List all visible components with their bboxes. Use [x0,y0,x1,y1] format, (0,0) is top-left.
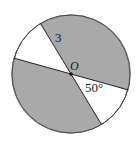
diagram-svg: 3 O 50° [0,0,140,141]
angle-label: 50° [85,80,103,95]
radius-label: 3 [55,30,62,45]
circle-diagram: 3 O 50° [0,0,140,141]
center-label: O [70,59,79,73]
